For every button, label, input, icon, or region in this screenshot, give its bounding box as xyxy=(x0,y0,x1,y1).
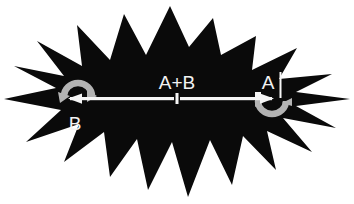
endpoint-tick xyxy=(280,72,282,98)
endpoint-marker xyxy=(255,92,261,98)
label-b: B xyxy=(69,113,82,134)
segment-line-left xyxy=(70,97,174,100)
label-a-plus-b: A+B xyxy=(159,72,195,93)
explosion-diagram-svg: B A+B A xyxy=(0,0,354,204)
label-a: A xyxy=(262,72,275,93)
diagram-canvas: B A+B A xyxy=(0,0,354,204)
midpoint-tick xyxy=(176,93,179,104)
